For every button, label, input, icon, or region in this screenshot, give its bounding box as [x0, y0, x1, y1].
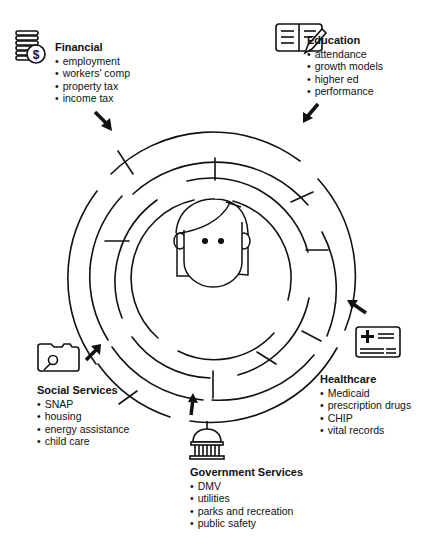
list-item: parks and recreation	[190, 505, 303, 518]
list-item: public safety	[190, 517, 303, 530]
list-item: higher ed	[307, 73, 383, 86]
category-title: Education	[307, 34, 383, 47]
list-item: income tax	[55, 92, 130, 105]
category-title: Healthcare	[320, 373, 411, 386]
list-item: Medicaid	[320, 387, 411, 400]
category-financial: Financial employment workers' comp prope…	[55, 41, 130, 105]
list-item: performance	[307, 85, 383, 98]
list-item: energy assistance	[37, 423, 129, 436]
maze-ring-3	[115, 200, 157, 318]
list-item: housing	[37, 410, 129, 423]
category-title: Government Services	[190, 466, 303, 479]
category-healthcare: Healthcare Medicaid prescription drugs C…	[320, 373, 411, 437]
arrow-education-icon	[303, 104, 318, 123]
category-title: Financial	[55, 41, 130, 54]
arrow-government-icon	[188, 393, 198, 415]
list-item: DMV	[190, 480, 303, 493]
list-item: property tax	[55, 80, 130, 93]
list-item: utilities	[190, 492, 303, 505]
category-title: Social Services	[37, 384, 129, 397]
maze-ring-outer	[111, 132, 300, 174]
category-government-services: Government Services DMV utilities parks …	[190, 466, 303, 530]
svg-text:$: $	[33, 48, 40, 62]
list-item: vital records	[320, 424, 411, 437]
list-item: employment	[55, 55, 130, 68]
person-face-icon	[174, 199, 250, 287]
list-item: growth models	[307, 60, 383, 73]
category-education: Education attendance growth models highe…	[307, 34, 383, 98]
category-social-services: Social Services SNAP housing energy assi…	[37, 384, 129, 448]
list-item: prescription drugs	[320, 399, 411, 412]
health-card-icon	[356, 327, 400, 357]
folder-search-icon	[38, 344, 79, 371]
list-item: CHIP	[320, 412, 411, 425]
arrow-healthcare-icon	[347, 300, 366, 313]
list-item: workers' comp	[55, 67, 130, 80]
list-item: SNAP	[37, 398, 129, 411]
list-item: child care	[37, 435, 129, 448]
arrow-financial-icon	[95, 112, 112, 131]
list-item: attendance	[307, 48, 383, 61]
coins-dollar-icon: $	[16, 31, 45, 63]
capitol-building-icon	[190, 421, 224, 459]
